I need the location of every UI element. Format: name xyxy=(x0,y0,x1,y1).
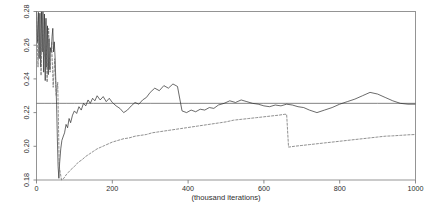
chart-background xyxy=(0,0,426,211)
x-tick-label: 400 xyxy=(182,184,194,193)
x-tick-label: 800 xyxy=(334,184,346,193)
y-tick-label: 0.22 xyxy=(22,106,31,120)
y-tick-label: 0.28 xyxy=(22,5,31,19)
chart-figure: 0.180.200.220.240.260.28 020040060080010… xyxy=(0,0,426,211)
y-tick-label: 0.20 xyxy=(22,139,31,153)
y-tick-label: 0.24 xyxy=(22,72,31,86)
x-axis-title: (thousand iterations) xyxy=(191,193,261,202)
y-tick-label: 0.18 xyxy=(22,173,31,187)
x-tick-label: 600 xyxy=(258,184,270,193)
x-tick-label: 0 xyxy=(35,184,39,193)
x-tick-label: 200 xyxy=(106,184,118,193)
y-tick-label: 0.26 xyxy=(22,38,31,52)
chart-canvas: 0.180.200.220.240.260.28 020040060080010… xyxy=(0,0,426,211)
x-tick-label: 1000 xyxy=(408,184,424,193)
